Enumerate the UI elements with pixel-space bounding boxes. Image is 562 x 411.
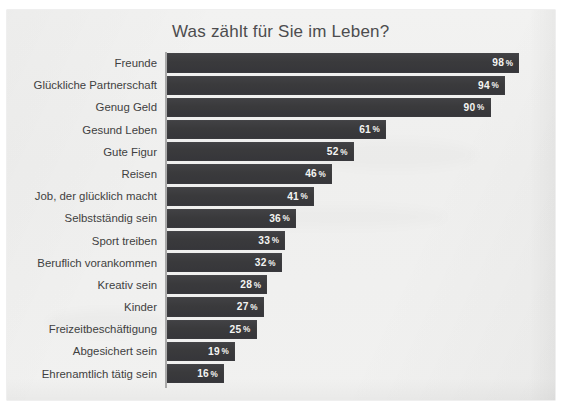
bar: 41% — [167, 187, 315, 206]
percent-sign: % — [211, 370, 219, 379]
bar: 16% — [167, 364, 225, 383]
bar-value-label: 32% — [255, 253, 276, 272]
bar-row: Glückliche Partnerschaft94% — [0, 74, 548, 96]
bar-value-number: 41 — [287, 191, 299, 202]
bar-row: Selbstständig sein36% — [0, 207, 548, 229]
bar-category-label: Beruflich vorankommen — [0, 252, 157, 274]
bar-wrapper: 52% — [167, 142, 354, 161]
bar-value-number: 33 — [258, 235, 270, 246]
bar-value-label: 19% — [208, 342, 229, 361]
chart-title: Was zählt für Sie im Leben? — [172, 22, 389, 42]
bar-wrapper: 41% — [167, 187, 315, 206]
bar-row: Genug Geld90% — [0, 96, 548, 118]
bar-category-label: Job, der glücklich macht — [0, 185, 157, 207]
bar: 52% — [167, 142, 354, 161]
percent-sign: % — [301, 192, 309, 201]
bar-wrapper: 90% — [167, 98, 491, 117]
bar-category-label: Reisen — [0, 163, 157, 185]
bar-wrapper: 16% — [167, 364, 225, 383]
bar-category-label: Genug Geld — [0, 96, 157, 118]
percent-sign: % — [243, 325, 251, 334]
bar: 27% — [167, 297, 264, 316]
bar-row: Ehrenamtlich tätig sein16% — [0, 363, 548, 385]
percent-sign: % — [491, 81, 499, 90]
bar-category-label: Kreativ sein — [0, 274, 157, 296]
bar-category-label: Gesund Leben — [0, 119, 157, 141]
bar-value-number: 16 — [197, 368, 209, 379]
bar-wrapper: 27% — [167, 297, 264, 316]
percent-sign: % — [221, 347, 229, 356]
bar-wrapper: 61% — [167, 120, 387, 139]
percent-sign: % — [283, 214, 291, 223]
bar-category-label: Sport treiben — [0, 230, 157, 252]
bar-value-label: 52% — [327, 142, 348, 161]
percent-sign: % — [477, 103, 485, 112]
bar: 19% — [167, 342, 235, 361]
bar-value-number: 94 — [478, 80, 490, 91]
bar-value-label: 25% — [230, 320, 251, 339]
bar-category-label: Gute Figur — [0, 141, 157, 163]
bar-wrapper: 94% — [167, 76, 505, 95]
bar-chart-plot-area: Freunde98%Glückliche Partnerschaft94%Gen… — [0, 52, 548, 390]
bar: 28% — [167, 275, 268, 294]
bar-row: Beruflich vorankommen32% — [0, 252, 548, 274]
bar-value-number: 27 — [237, 301, 249, 312]
bar-value-number: 98 — [492, 57, 504, 68]
bar: 61% — [167, 120, 387, 139]
bar-value-number: 36 — [269, 213, 281, 224]
percent-sign: % — [268, 259, 276, 268]
bar-wrapper: 19% — [167, 342, 235, 361]
bar-value-number: 90 — [464, 102, 476, 113]
percent-sign: % — [506, 59, 514, 68]
bar-row: Kreativ sein28% — [0, 274, 548, 296]
bar: 46% — [167, 164, 333, 183]
bar-row: Gesund Leben61% — [0, 119, 548, 141]
percent-sign: % — [373, 125, 381, 134]
bar-row: Sport treiben33% — [0, 230, 548, 252]
bar-row: Job, der glücklich macht41% — [0, 185, 548, 207]
bar: 25% — [167, 320, 257, 339]
bar-value-label: 27% — [237, 297, 258, 316]
bar-value-label: 94% — [478, 76, 499, 95]
bar-value-number: 28 — [240, 279, 252, 290]
bar-value-number: 32 — [255, 257, 267, 268]
bar-value-number: 19 — [208, 346, 220, 357]
bar: 36% — [167, 209, 297, 228]
chart-screenshot: Was zählt für Sie im Leben? Freunde98%Gl… — [0, 0, 562, 411]
bar-category-label: Kinder — [0, 296, 157, 318]
bar-wrapper: 46% — [167, 164, 333, 183]
bar-value-label: 33% — [258, 231, 279, 250]
bar-wrapper: 33% — [167, 231, 286, 250]
bar-value-label: 61% — [359, 120, 380, 139]
bar-value-label: 46% — [305, 164, 326, 183]
bar-value-label: 98% — [492, 53, 513, 72]
bar-value-number: 52 — [327, 146, 339, 157]
bar-rows-container: Freunde98%Glückliche Partnerschaft94%Gen… — [0, 52, 548, 385]
bar-value-label: 28% — [240, 275, 261, 294]
bar-wrapper: 25% — [167, 320, 257, 339]
bar-row: Reisen46% — [0, 163, 548, 185]
bar-wrapper: 98% — [167, 53, 520, 72]
bar-value-label: 36% — [269, 209, 290, 228]
bar-category-label: Freizeitbeschäftigung — [0, 318, 157, 340]
bar: 90% — [167, 98, 491, 117]
bar-wrapper: 28% — [167, 275, 268, 294]
percent-sign: % — [272, 236, 280, 245]
bar: 94% — [167, 76, 505, 95]
bar-row: Kinder27% — [0, 296, 548, 318]
bar-row: Freunde98% — [0, 52, 548, 74]
bar: 33% — [167, 231, 286, 250]
bar-row: Abgesichert sein19% — [0, 340, 548, 362]
bar-value-label: 16% — [197, 364, 218, 383]
bar-category-label: Ehrenamtlich tätig sein — [0, 363, 157, 385]
bar-row: Freizeitbeschäftigung25% — [0, 318, 548, 340]
bar-value-label: 90% — [464, 98, 485, 117]
bar: 98% — [167, 53, 520, 72]
bar-wrapper: 36% — [167, 209, 297, 228]
bar-category-label: Abgesichert sein — [0, 340, 157, 362]
bar-category-label: Glückliche Partnerschaft — [0, 74, 157, 96]
bar-value-number: 46 — [305, 168, 317, 179]
bar-value-label: 41% — [287, 187, 308, 206]
bar: 32% — [167, 253, 282, 272]
bar-wrapper: 32% — [167, 253, 282, 272]
